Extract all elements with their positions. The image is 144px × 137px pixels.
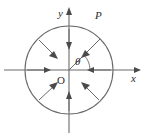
figure-root: x y O P θ <box>0 0 144 137</box>
arrow-northwest-inward <box>39 40 58 59</box>
angle-theta-label: θ <box>75 55 81 67</box>
y-axis-arrowhead <box>66 7 72 15</box>
arrow-southeast-inward <box>81 82 99 100</box>
origin-label: O <box>57 74 65 86</box>
angle-arc <box>84 55 90 70</box>
arrow-south-inward <box>66 91 72 111</box>
arrow-north-inward <box>66 29 72 50</box>
y-axis-label: y <box>57 7 63 19</box>
arrow-west-inward <box>27 67 51 73</box>
arrow-east-inward <box>87 67 111 73</box>
vector-field-diagram: x y O P θ <box>0 0 144 137</box>
arrow-southwest-inward <box>39 82 58 100</box>
point-p-label: P <box>94 9 102 21</box>
arrow-northeast-inward <box>81 40 99 58</box>
x-axis-label: x <box>130 72 136 84</box>
